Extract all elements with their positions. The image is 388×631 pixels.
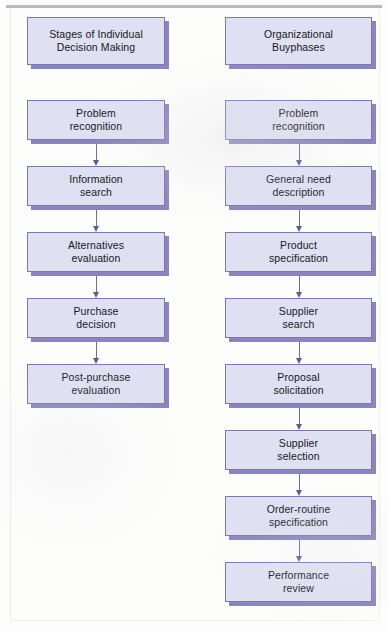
arrow-head-icon: [296, 358, 302, 364]
organizational-step-supplier-selection: Supplier selection: [225, 430, 372, 470]
arrow-shaft: [299, 474, 300, 491]
node-label: General need description: [262, 173, 335, 199]
individual-header-box: Stages of Individual Decision Making: [27, 17, 165, 65]
organizational-connector-2: [299, 210, 300, 232]
organizational-connector-1: [299, 144, 300, 166]
node-label: Supplier selection: [273, 437, 323, 463]
node-label: Organizational Buyphases: [260, 28, 337, 54]
arrow-head-icon: [93, 160, 99, 166]
arrow-shaft: [299, 210, 300, 227]
node-label: Problem recognition: [66, 107, 126, 133]
organizational-step-proposal-solicitation: Proposal solicitation: [225, 364, 372, 404]
arrow-shaft: [96, 342, 97, 359]
arrow-shaft: [96, 210, 97, 227]
arrow-head-icon: [296, 424, 302, 430]
arrow-shaft: [96, 144, 97, 161]
organizational-step-performance-review: Performance review: [225, 562, 372, 602]
flowchart-figure: Stages of Individual Decision MakingProb…: [0, 0, 388, 631]
node-label: Proposal solicitation: [269, 371, 327, 397]
page-frame-top-rule: [6, 5, 382, 8]
organizational-connector-6: [299, 474, 300, 496]
arrow-head-icon: [93, 226, 99, 232]
node-label: Stages of Individual Decision Making: [45, 28, 147, 54]
node-label: Supplier search: [275, 305, 322, 331]
individual-connector-2: [96, 210, 97, 232]
node-label: Information search: [65, 173, 127, 199]
node-label: Product specification: [265, 239, 332, 265]
individual-step-information-search: Information search: [27, 166, 165, 206]
arrow-shaft: [299, 276, 300, 293]
node-label: Post-purchase evaluation: [57, 371, 134, 397]
organizational-step-product-specification: Product specification: [225, 232, 372, 272]
arrow-head-icon: [93, 292, 99, 298]
organizational-header-box: Organizational Buyphases: [225, 17, 372, 65]
individual-step-alternatives-evaluation: Alternatives evaluation: [27, 232, 165, 272]
arrow-head-icon: [296, 292, 302, 298]
arrow-head-icon: [296, 226, 302, 232]
node-label: Performance review: [264, 569, 333, 595]
organizational-connector-7: [299, 540, 300, 562]
organizational-connector-4: [299, 342, 300, 364]
organizational-step-order-routine-specification: Order-routine specification: [225, 496, 372, 536]
node-label: Purchase decision: [69, 305, 122, 331]
page-frame-right-rule: [379, 8, 380, 620]
organizational-step-general-need-description: General need description: [225, 166, 372, 206]
organizational-step-problem-recognition: Problem recognition: [225, 100, 372, 140]
arrow-head-icon: [296, 556, 302, 562]
organizational-connector-3: [299, 276, 300, 298]
organizational-connector-5: [299, 408, 300, 430]
arrow-shaft: [96, 276, 97, 293]
individual-step-problem-recognition: Problem recognition: [27, 100, 165, 140]
page-frame-bottom-rule: [10, 620, 380, 621]
arrow-shaft: [299, 408, 300, 425]
arrow-shaft: [299, 342, 300, 359]
individual-connector-3: [96, 276, 97, 298]
page-frame-left-rule: [10, 8, 11, 620]
node-label: Problem recognition: [268, 107, 328, 133]
organizational-step-supplier-search: Supplier search: [225, 298, 372, 338]
arrow-head-icon: [296, 490, 302, 496]
arrow-head-icon: [296, 160, 302, 166]
arrow-shaft: [299, 540, 300, 557]
individual-step-purchase-decision: Purchase decision: [27, 298, 165, 338]
individual-connector-1: [96, 144, 97, 166]
arrow-head-icon: [93, 358, 99, 364]
node-label: Order-routine specification: [263, 503, 335, 529]
individual-step-post-purchase-evaluation: Post-purchase evaluation: [27, 364, 165, 404]
arrow-shaft: [299, 144, 300, 161]
node-label: Alternatives evaluation: [64, 239, 128, 265]
individual-connector-4: [96, 342, 97, 364]
